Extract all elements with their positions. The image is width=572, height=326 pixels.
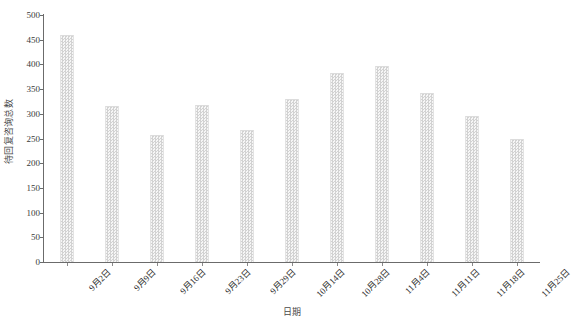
y-axis-tick-mark	[40, 262, 44, 263]
x-axis-tick-mark	[112, 263, 113, 266]
bar	[240, 130, 254, 262]
y-axis-tick-mark	[40, 64, 44, 65]
x-axis-tick-labels: 9月2日9月9日9月16日9月23日9月29日10月14日10月28日11月4日…	[44, 266, 540, 304]
x-axis-tick-mark	[382, 263, 383, 266]
x-axis-tick-label: 11月11日	[450, 267, 481, 298]
bar	[150, 135, 164, 262]
y-axis-tick-label: 150	[27, 183, 41, 192]
x-axis-tick-mark	[292, 263, 293, 266]
x-axis-tick-label: 9月23日	[224, 267, 253, 296]
y-axis-tick-mark	[40, 163, 44, 164]
x-axis-tick-label: 11月25日	[540, 267, 572, 299]
y-axis-tick-label: 450	[27, 35, 41, 44]
y-axis-tick-mark	[40, 114, 44, 115]
x-axis-tick-label: 9月9日	[132, 267, 157, 292]
bar	[195, 105, 209, 262]
y-axis-tick-labels: 050100150200250300350400450500	[16, 15, 40, 262]
x-axis-tick-mark	[472, 263, 473, 266]
bar	[105, 106, 119, 262]
y-axis-tick-label: 500	[27, 11, 41, 20]
y-axis-tick-label: 250	[27, 134, 41, 143]
x-axis-tick-label: 10月28日	[360, 267, 392, 299]
y-axis-tick-mark	[40, 40, 44, 41]
x-axis-tick-label: 11月18日	[495, 267, 527, 299]
y-axis-title-text: 待回复咨询总数	[3, 98, 16, 163]
y-axis-tick-label: 350	[27, 85, 41, 94]
y-axis-tick-mark	[40, 213, 44, 214]
x-axis-tick-mark	[427, 263, 428, 266]
y-axis-tick-mark	[40, 89, 44, 90]
plot-area	[44, 15, 540, 262]
x-axis-tick-label: 10月14日	[315, 267, 347, 299]
bar	[465, 116, 479, 262]
bar	[285, 99, 299, 262]
y-axis-tick-label: 100	[27, 208, 41, 217]
y-axis-tick-mark	[40, 15, 44, 16]
x-axis-tick-label: 9月29日	[269, 267, 298, 296]
bar	[510, 139, 524, 263]
x-axis-tick-mark	[67, 263, 68, 266]
bar	[60, 35, 74, 262]
bar	[420, 93, 434, 262]
y-axis-tick-label: 200	[27, 159, 41, 168]
y-axis-tick-label: 400	[27, 60, 41, 69]
bar	[330, 73, 344, 262]
y-axis-tick-mark	[40, 237, 44, 238]
x-axis-tick-mark	[337, 263, 338, 266]
y-axis-tick-label: 300	[27, 109, 41, 118]
y-axis-tick-mark	[40, 188, 44, 189]
x-axis-tick-label: 9月2日	[87, 267, 112, 292]
x-axis-tick-mark	[202, 263, 203, 266]
x-axis-tick-mark	[517, 263, 518, 266]
y-axis-tick-label: 50	[31, 233, 40, 242]
x-axis-tick-mark	[157, 263, 158, 266]
bar	[375, 66, 389, 262]
x-axis-title: 日期	[44, 305, 540, 318]
x-axis-tick-label: 9月16日	[179, 267, 208, 296]
x-axis-tick-mark	[247, 263, 248, 266]
y-axis-tick-mark	[40, 139, 44, 140]
x-axis-tick-label: 11月4日	[404, 267, 432, 295]
